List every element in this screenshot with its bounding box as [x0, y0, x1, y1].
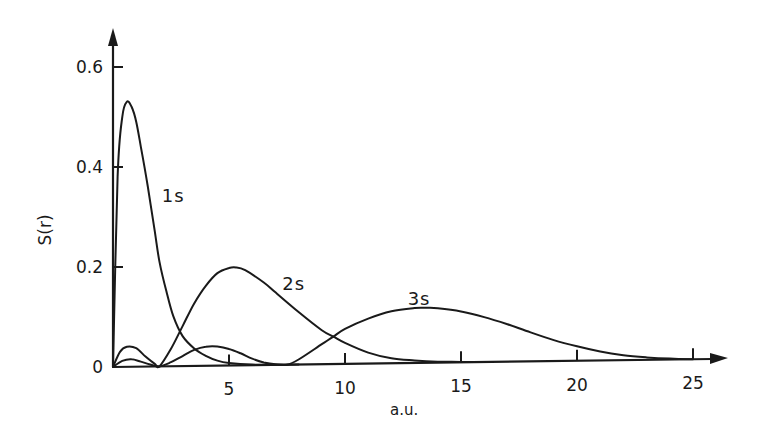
curves: [113, 101, 693, 367]
curve-label-1s: 1s: [162, 185, 185, 206]
y-tick-label: 0.2: [76, 257, 103, 277]
curve-label-2s: 2s: [282, 273, 305, 294]
y-tick-label: 0.4: [76, 157, 103, 177]
x-axis-title: a.u.: [390, 401, 418, 419]
curve-1s: [113, 101, 299, 367]
y-axis-title: S(r): [35, 214, 55, 245]
y-tick-label: 0: [92, 357, 103, 377]
x-tick-label: 5: [224, 379, 235, 399]
curve-3s: [113, 308, 693, 367]
axes: [108, 28, 728, 367]
x-tick-label: 15: [450, 376, 472, 396]
curve-label-3s: 3s: [408, 288, 431, 309]
y-axis-arrow-icon: [108, 28, 118, 46]
x-tick-label: 20: [566, 375, 588, 395]
x-tick-label: 25: [682, 373, 704, 393]
x-tick-label: 10: [334, 378, 356, 398]
y-tick-label: 0.6: [76, 57, 103, 77]
x-axis-arrow-icon: [710, 353, 728, 364]
radial-distribution-chart: 510152025 00.20.40.6 1s2s3s a.u. S(r): [0, 0, 760, 442]
